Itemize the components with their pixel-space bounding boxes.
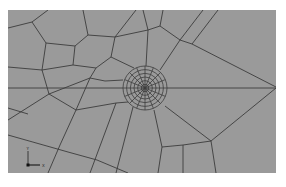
mesh-edge [143, 10, 148, 30]
mesh-edge [115, 10, 163, 37]
mesh-edge [116, 107, 133, 173]
mesh-edge [192, 44, 276, 87]
mesh-edge [146, 30, 148, 66]
triad-y-label: Y [26, 146, 30, 151]
mesh-edge [90, 78, 123, 81]
mesh-edge [183, 88, 276, 145]
mesh-edge [165, 106, 211, 141]
mesh-edge [32, 22, 46, 70]
mesh-edge [76, 102, 128, 110]
mesh-edge [49, 94, 76, 145]
mesh-edge [160, 40, 180, 70]
mesh-canvas: Y X [8, 10, 276, 173]
mesh-edge [97, 160, 128, 173]
mesh-edge [88, 10, 136, 37]
refinement-ray [145, 88, 161, 104]
mesh-edge [160, 10, 203, 40]
model-viewport[interactable]: Y X [8, 10, 276, 173]
mesh-edge [8, 65, 73, 70]
refinement-ray [129, 72, 145, 88]
mesh-edge [48, 145, 60, 173]
mesh-edge [46, 10, 88, 46]
mesh-edge [73, 46, 96, 68]
mesh-edge [96, 37, 115, 68]
mesh-edge [211, 141, 216, 173]
mesh-edge [154, 110, 162, 173]
mesh-edge [8, 10, 48, 28]
mesh-edge [8, 70, 49, 120]
mesh-edge [162, 145, 183, 173]
triad-x-label: X [42, 163, 45, 168]
triad-origin [27, 164, 30, 167]
refinement-ray [145, 72, 161, 88]
mesh-edge [8, 135, 97, 160]
refined-region [123, 66, 167, 110]
mesh-edge [111, 57, 134, 68]
coordinate-triad: Y X [26, 146, 46, 168]
refinement-ray [129, 88, 145, 104]
